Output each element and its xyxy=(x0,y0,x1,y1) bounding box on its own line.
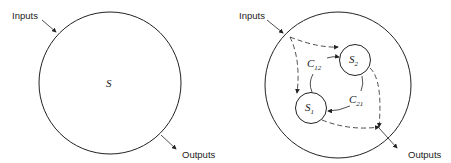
right-diagram: Inputs S2 S1 C12 C21 Outputs xyxy=(239,10,442,160)
coupling-12-label: C12 xyxy=(307,57,322,72)
output-arrow xyxy=(161,135,176,149)
flow-input-to-s1 xyxy=(290,37,298,93)
inputs-label: Inputs xyxy=(239,10,265,21)
subsystem-1-label: S1 xyxy=(305,101,314,116)
coupling-21-label: C21 xyxy=(349,93,363,108)
outputs-label: Outputs xyxy=(408,149,442,160)
outputs-label: Outputs xyxy=(182,149,216,160)
input-arrow xyxy=(267,20,283,33)
system-label: S xyxy=(106,77,112,89)
left-diagram: Inputs S Outputs xyxy=(12,10,216,160)
input-arrow xyxy=(42,20,56,32)
system-boundary-circle xyxy=(265,12,411,158)
flow-input-to-s2 xyxy=(290,37,338,47)
coupling-21-line xyxy=(361,76,363,91)
coupling-12-line xyxy=(310,74,313,92)
flow-s2-to-output xyxy=(370,68,380,127)
flow-s1-to-output xyxy=(322,120,379,128)
inputs-label: Inputs xyxy=(12,10,38,21)
coupling-21-arrow xyxy=(328,106,350,111)
subsystem-2-label: S2 xyxy=(349,53,359,68)
system-decomposition-diagram: Inputs S Outputs Inputs S2 S1 C12 C21 Ou… xyxy=(0,0,451,163)
coupling-12-arrow xyxy=(327,57,339,58)
